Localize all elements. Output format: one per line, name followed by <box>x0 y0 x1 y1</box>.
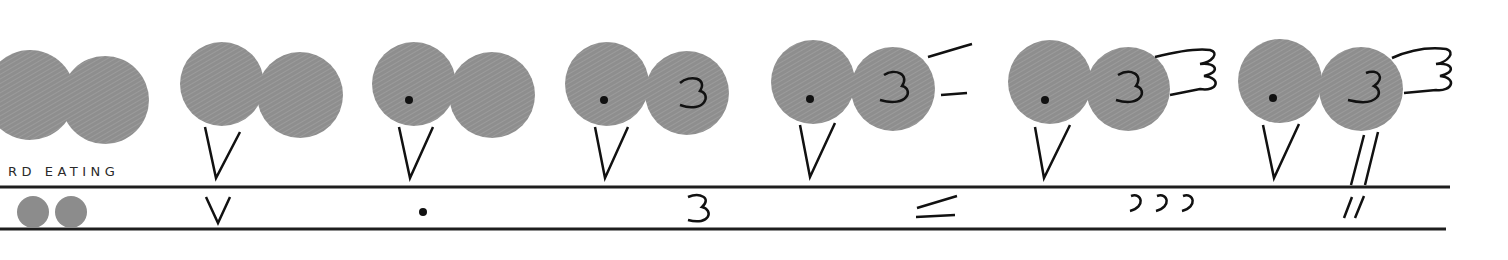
step-4-bird <box>565 42 729 178</box>
bird-eating-drawing-guide: RD EATING <box>0 0 1508 260</box>
body-circle <box>257 52 343 138</box>
symbol-lines-icon <box>916 196 957 217</box>
eye-icon <box>1041 96 1049 104</box>
beak-icon <box>399 127 433 178</box>
body-circle <box>645 51 729 135</box>
step-6-bird <box>1008 40 1216 178</box>
symbol-two-dots-left <box>17 196 49 228</box>
beak-icon <box>205 127 240 178</box>
symbol-dot-icon <box>419 208 427 216</box>
symbol-row <box>17 195 1364 228</box>
beak-icon <box>1263 124 1299 178</box>
head-circle <box>771 40 855 124</box>
head-circle <box>1238 39 1322 123</box>
step-3-bird <box>372 42 535 178</box>
step-5-bird <box>771 40 972 177</box>
head-circle <box>565 42 649 126</box>
symbol-legs-icon <box>1344 196 1364 218</box>
body-circle <box>61 56 149 144</box>
symbol-curls-icon <box>1130 195 1193 211</box>
legs-icon <box>1351 132 1378 185</box>
symbol-two-dots-right <box>55 196 87 228</box>
tail-line-bottom-icon <box>941 93 967 95</box>
beak-icon <box>1035 125 1070 178</box>
symbol-v-icon <box>206 197 230 223</box>
symbol-three-icon <box>688 195 709 221</box>
head-circle <box>1008 40 1092 124</box>
eye-icon <box>600 96 608 104</box>
body-circle <box>851 47 935 131</box>
step-7-bird <box>1238 39 1451 185</box>
body-circle <box>449 52 535 138</box>
step-1-bird <box>0 50 149 144</box>
step-2-bird <box>180 42 343 178</box>
eye-icon <box>1269 94 1277 102</box>
eye-icon <box>806 95 814 103</box>
body-circle <box>1319 47 1403 131</box>
illustration-canvas <box>0 0 1508 260</box>
head-circle <box>180 42 264 126</box>
beak-icon <box>595 127 628 178</box>
body-circle <box>1086 47 1170 131</box>
diagram-title: RD EATING <box>8 164 119 179</box>
eye-icon <box>405 96 413 104</box>
beak-icon <box>800 123 835 177</box>
head-circle <box>372 42 456 126</box>
tail-line-top-icon <box>928 44 972 57</box>
